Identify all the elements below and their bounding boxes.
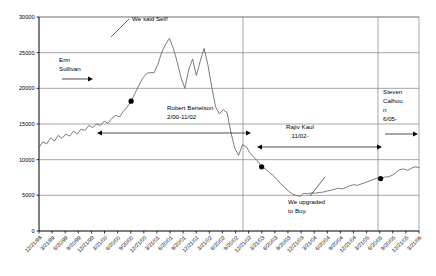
y-tick-label-10000: 10000: [19, 157, 35, 163]
marker-low-point: [259, 164, 264, 169]
steven-calhoun-label-line4: 6/05-: [383, 115, 397, 122]
y-tick-label-5000: 5000: [22, 192, 34, 198]
robert-bertelson-label-line1: Robert Bertelson: [167, 104, 214, 111]
y-tick-label-0: 0: [31, 228, 34, 234]
steven-calhoun-label-line3: n: [383, 106, 387, 113]
chart-canvas: 050001000015000200002500030000 12/21/983…: [0, 0, 436, 276]
stock-performance-chart: 050001000015000200002500030000 12/21/983…: [0, 0, 436, 276]
rajiv-kaul-label-line1: Rajiv Kaul: [286, 123, 314, 130]
marker-sell-point: [129, 99, 134, 104]
chart-background: [0, 0, 436, 276]
steven-calhoun-label-line2: Calhou: [383, 97, 403, 104]
rajiv-kaul-label-line2: 11/02-: [291, 132, 308, 139]
we-upgraded-label-line2: to Buy.: [288, 207, 307, 214]
steven-calhoun-label-line1: Steven: [383, 88, 403, 95]
marker-upgrade-point: [378, 176, 383, 181]
erin-sullivan-label-line2: Sullivan: [59, 65, 81, 72]
y-tick-label-20000: 20000: [19, 85, 35, 91]
we-upgraded-label-line1: We upgraded: [288, 198, 326, 205]
erin-sullivan-label-line1: Erin: [59, 56, 71, 63]
robert-bertelson-label-line2: 2/00-11/02: [167, 113, 197, 120]
y-tick-label-25000: 25000: [19, 50, 35, 56]
y-tick-label-15000: 15000: [19, 121, 35, 127]
we-said-sell-label: We said Sell!: [132, 15, 168, 22]
y-tick-label-30000: 30000: [19, 14, 35, 20]
